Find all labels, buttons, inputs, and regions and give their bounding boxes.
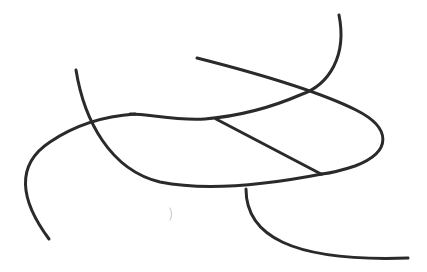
line-drawing-canvas xyxy=(0,0,427,272)
background xyxy=(0,0,427,272)
